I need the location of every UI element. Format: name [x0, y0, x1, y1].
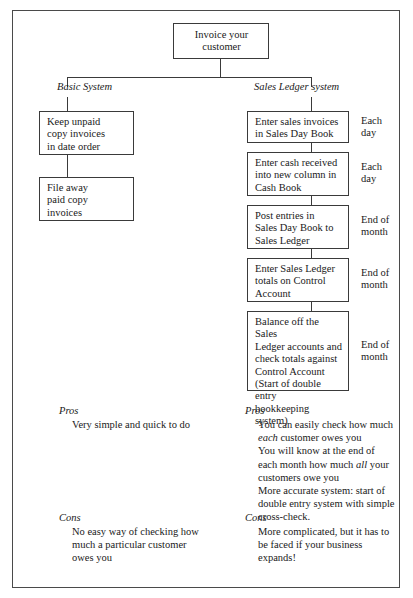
side-label-sales-3: End of month [361, 214, 389, 239]
text-line: each month how much all your [258, 458, 413, 471]
flow-node-sales-3-label: Post entries in Sales Day Book to Sales … [255, 210, 333, 246]
flow-node-sales-5: Balance off the Sales Ledger accounts an… [247, 311, 349, 391]
basic-cons-block: Cons No easy way of checking howmuch a p… [59, 511, 229, 565]
flow-node-sales-1-label: Enter sales invoices in Sales Day Book [255, 116, 338, 139]
basic-pros-heading: Pros [59, 404, 229, 417]
connector-split-bar [67, 77, 312, 78]
sales-ledger-pros-block: Pros You can easily check how mucheach c… [245, 404, 413, 524]
text-line: You can easily check how much [258, 418, 413, 431]
basic-pros-body: Very simple and quick to do [59, 418, 229, 431]
flow-node-sales-1: Enter sales invoices in Sales Day Book [247, 111, 349, 143]
text-line: double entry system with simple [258, 497, 413, 510]
page-frame: Invoice your customer Basic System Sales… [12, 10, 400, 588]
flow-node-basic-2-label: File away paid copy invoices [47, 182, 88, 218]
side-label-sales-2: Each day [361, 161, 382, 186]
text-line: More complicated, but it has to [258, 525, 413, 538]
connector-basic-1 [67, 97, 68, 111]
connector-sales-5 [311, 302, 312, 311]
basic-pros-block: Pros Very simple and quick to do [59, 404, 229, 431]
text-line: be faced if your business [258, 538, 413, 551]
side-label-sales-4: End of month [361, 267, 389, 292]
flow-node-root-label: Invoice your customer [195, 29, 248, 54]
connector-basic-2 [67, 155, 68, 177]
sales-ledger-cons-block: Cons More complicated, but it has tobe f… [245, 511, 413, 565]
connector-sales-1 [311, 97, 312, 111]
flow-node-root: Invoice your customer [173, 23, 269, 59]
sales-ledger-pros-body: You can easily check how mucheach custom… [245, 418, 413, 524]
connector-root-stem [220, 59, 221, 77]
connector-sales-2 [311, 143, 312, 152]
branch-title-basic: Basic System [57, 81, 112, 92]
text-line: You will know at the end of [258, 444, 413, 457]
basic-cons-heading: Cons [59, 511, 229, 524]
text-line: customers owe you [258, 471, 413, 484]
flow-node-sales-2-label: Enter cash received into new column in C… [255, 157, 337, 193]
flow-node-sales-2: Enter cash received into new column in C… [247, 152, 349, 196]
side-label-sales-1: Each day [361, 115, 382, 140]
flow-node-sales-3: Post entries in Sales Day Book to Sales … [247, 205, 349, 249]
flow-node-basic-1: Keep unpaid copy invoices in date order [39, 111, 134, 155]
text-line: Very simple and quick to do [72, 418, 229, 431]
flow-node-sales-4-label: Enter Sales Ledger totals on Control Acc… [255, 263, 335, 299]
connector-sales-3 [311, 196, 312, 205]
text-line: owes you [72, 551, 229, 564]
sales-ledger-cons-heading: Cons [245, 511, 413, 524]
sales-ledger-pros-heading: Pros [245, 404, 413, 417]
text-line: each customer owes you [258, 431, 413, 444]
text-line: More accurate system: start of [258, 484, 413, 497]
basic-cons-body: No easy way of checking howmuch a partic… [59, 525, 229, 565]
flow-node-sales-4: Enter Sales Ledger totals on Control Acc… [247, 258, 349, 302]
text-line: No easy way of checking how [72, 525, 229, 538]
flow-node-basic-1-label: Keep unpaid copy invoices in date order [47, 116, 105, 152]
branch-title-sales-ledger: Sales Ledger system [254, 81, 339, 92]
side-label-sales-5: End of month [361, 339, 389, 364]
connector-sales-4 [311, 249, 312, 258]
text-line: much a particular customer [72, 538, 229, 551]
sales-ledger-cons-body: More complicated, but it has tobe faced … [245, 525, 413, 565]
flow-node-basic-2: File away paid copy invoices [39, 177, 134, 221]
text-line: expands! [258, 551, 413, 564]
